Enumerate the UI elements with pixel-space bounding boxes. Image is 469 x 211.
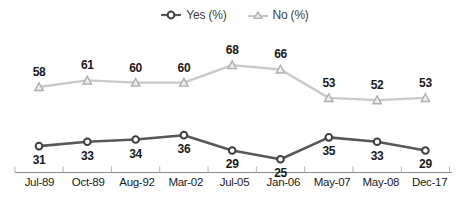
data-label-no: 53 [408, 76, 442, 90]
x-axis-label-1: Oct-89 [64, 176, 113, 188]
x-axis-label-5: Jan-06 [259, 176, 308, 188]
data-point-yes [422, 147, 429, 154]
x-axis-label-6: May-07 [308, 176, 357, 188]
data-point-yes [326, 134, 333, 141]
data-point-yes [181, 132, 188, 139]
data-label-no: 66 [264, 47, 298, 61]
line-chart: Yes (%) No (%) 58616060686653525331333 [0, 0, 469, 211]
x-axis-label-3: Mar-02 [161, 176, 210, 188]
data-label-no: 61 [70, 58, 104, 72]
data-label-no: 58 [22, 65, 56, 79]
data-label-no: 60 [167, 61, 201, 75]
data-label-yes: 29 [408, 157, 442, 171]
data-point-yes [36, 143, 43, 150]
data-label-no: 53 [312, 76, 346, 90]
x-axis-label-7: May-08 [356, 176, 405, 188]
data-point-yes [229, 147, 236, 154]
data-label-no: 52 [360, 78, 394, 92]
x-axis-label-0: Jul-89 [15, 176, 64, 188]
x-axis-labels: Jul-89Oct-89Aug-92Mar-02Jul-05Jan-06May-… [15, 176, 454, 188]
data-label-yes: 33 [360, 149, 394, 163]
data-label-yes: 29 [215, 157, 249, 171]
data-point-yes [374, 138, 381, 145]
data-label-no: 68 [215, 43, 249, 57]
x-axis-label-4: Jul-05 [210, 176, 259, 188]
data-label-yes: 34 [119, 147, 153, 161]
data-point-yes [277, 156, 284, 163]
x-axis-label-8: Dec-17 [405, 176, 454, 188]
data-label-yes: 35 [312, 144, 346, 158]
data-point-yes [132, 136, 139, 143]
data-point-yes [84, 138, 91, 145]
data-label-yes: 36 [167, 142, 201, 156]
data-label-yes: 31 [22, 153, 56, 167]
x-axis-label-2: Aug-92 [113, 176, 162, 188]
data-label-yes: 33 [70, 149, 104, 163]
data-label-no: 60 [119, 61, 153, 75]
